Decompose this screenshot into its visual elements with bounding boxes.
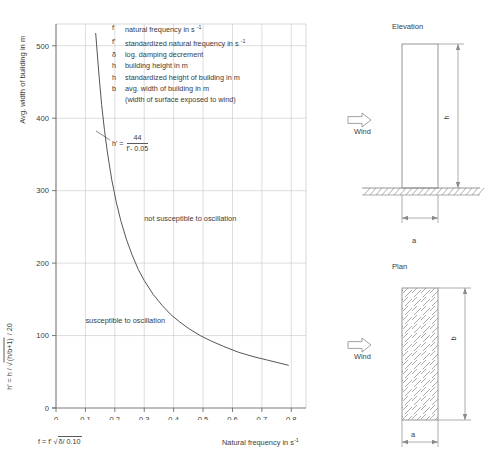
equation-leader-line bbox=[96, 131, 110, 140]
y-tick-label: 400 bbox=[36, 114, 49, 123]
symbol-legend: fnatural frequency in s -1f'standardized… bbox=[112, 22, 245, 105]
ground-hatch-line bbox=[460, 188, 466, 195]
ground-hatch-line bbox=[412, 188, 418, 195]
elevation-building-outline bbox=[402, 44, 438, 188]
ground-hatch-line bbox=[382, 188, 388, 195]
legend-symbol: h bbox=[112, 60, 125, 71]
legend-item: bavg. width of building in m bbox=[112, 83, 245, 94]
region-label-not-susceptible: not susceptible to oscillation bbox=[144, 214, 236, 223]
x-tick-label: 0.8 bbox=[286, 415, 297, 420]
legend-item: δlog. damping decrement bbox=[112, 49, 245, 60]
ground-hatch-line bbox=[388, 188, 394, 195]
equation-numerator: 44 bbox=[127, 133, 149, 144]
dimension-arrow-up-icon bbox=[463, 288, 467, 294]
legend-description: building height in m bbox=[125, 60, 188, 71]
legend-symbol: h bbox=[112, 72, 125, 83]
ground-hatch-line bbox=[472, 188, 478, 195]
legend-item: fnatural frequency in s -1 bbox=[112, 22, 245, 36]
ground-hatch-line bbox=[442, 188, 448, 195]
y-tick-label: 500 bbox=[36, 42, 49, 51]
ground-hatch-line bbox=[406, 188, 412, 195]
ground-hatch-line bbox=[436, 188, 442, 195]
y-formula-radicand: (h/b+1) bbox=[4, 337, 14, 362]
ground-hatch-line bbox=[466, 188, 472, 195]
dimension-arrow-down-icon bbox=[463, 414, 467, 420]
y-formula-prefix: h' = h / bbox=[5, 366, 14, 390]
ground-hatch-line bbox=[454, 188, 460, 195]
x-formula-radicand: δ/ 0.10 bbox=[58, 436, 82, 446]
sqrt-icon: √ bbox=[5, 362, 14, 366]
legend-symbol: f bbox=[112, 22, 125, 36]
ground-hatch-line bbox=[364, 188, 370, 195]
y-axis-title: Avg. width of building in m bbox=[19, 15, 27, 145]
wind-arrow-icon bbox=[348, 338, 371, 352]
ground-hatch-line bbox=[370, 188, 376, 195]
x-tick-label: 0.1 bbox=[80, 415, 91, 420]
ground-hatch-line bbox=[394, 188, 400, 195]
x-tick-label: 0.4 bbox=[168, 415, 179, 420]
equation-lhs: h' = bbox=[112, 139, 127, 148]
legend-item: f'standardized natural frequency in s -1 bbox=[112, 36, 245, 50]
legend-description: natural frequency in s -1 bbox=[125, 22, 202, 36]
y-formula-suffix: / 20 bbox=[5, 323, 14, 337]
legend-symbol: δ bbox=[112, 49, 125, 60]
wind-arrow-icon bbox=[348, 113, 371, 127]
legend-description: log. damping decrement bbox=[125, 49, 203, 60]
x-tick-label: 0.3 bbox=[139, 415, 150, 420]
legend-description: standardized natural frequency in s -1 bbox=[125, 36, 245, 50]
x-tick-label: 0.7 bbox=[257, 415, 268, 420]
ground-hatch-line bbox=[418, 188, 424, 195]
dimension-arrow-right-icon bbox=[432, 216, 438, 220]
building-diagrams bbox=[340, 0, 489, 469]
y-tick-label: 100 bbox=[36, 331, 49, 340]
dimension-arrow-up-icon bbox=[456, 44, 460, 50]
x-axis-formula: f = f' √δ/ 0.10 bbox=[38, 437, 82, 446]
equation-denominator: f'- 0.05 bbox=[127, 144, 149, 154]
legend-symbol: b bbox=[112, 83, 125, 94]
legend-symbol bbox=[112, 94, 125, 105]
plan-building-outline bbox=[402, 288, 438, 420]
legend-description: standardized height of building in m bbox=[125, 72, 240, 83]
ground-hatch-line bbox=[400, 188, 406, 195]
x-formula-prefix: f = f' bbox=[38, 437, 54, 446]
x-axis-title: Natural frequency in s-1 bbox=[222, 437, 299, 447]
y-tick-label: 200 bbox=[36, 259, 49, 268]
y-axis-formula: h' = h / √(h/b+1) / 20 bbox=[5, 314, 14, 400]
legend-exponent: -1 bbox=[197, 24, 202, 30]
legend-description: avg. width of building in m bbox=[125, 83, 209, 94]
curve-equation-callout: h' = 44 f'- 0.05 bbox=[112, 133, 148, 153]
x-axis-title-exponent: -1 bbox=[294, 437, 299, 443]
x-axis-title-text: Natural frequency in s bbox=[222, 438, 294, 447]
legend-item: (width of surface exposed to wind) bbox=[112, 94, 245, 105]
ground-hatch-line bbox=[448, 188, 454, 195]
ground-hatch-line bbox=[376, 188, 382, 195]
legend-item: hstandardized height of building in m bbox=[112, 72, 245, 83]
x-tick-label: 0 bbox=[54, 415, 58, 420]
legend-symbol: f' bbox=[112, 36, 125, 50]
sqrt-icon-x: √ bbox=[54, 437, 58, 446]
legend-exponent: -1 bbox=[241, 38, 246, 44]
x-tick-label: 0.2 bbox=[110, 415, 121, 420]
dimension-arrow-down-icon bbox=[456, 182, 460, 188]
region-label-susceptible: susceptible to oscillation bbox=[85, 316, 165, 325]
y-tick-label: 300 bbox=[36, 186, 49, 195]
x-tick-label: 0.6 bbox=[227, 415, 238, 420]
ground-hatch-line bbox=[478, 188, 484, 195]
x-tick-label: 0.5 bbox=[198, 415, 209, 420]
legend-item: hbuilding height in m bbox=[112, 60, 245, 71]
dimension-arrow-left-icon bbox=[402, 440, 408, 444]
dimension-arrow-right-icon bbox=[432, 440, 438, 444]
ground-hatch-line bbox=[424, 188, 430, 195]
dimension-arrow-left-icon bbox=[402, 216, 408, 220]
ground-hatch-line bbox=[430, 188, 436, 195]
legend-description: (width of surface exposed to wind) bbox=[125, 94, 236, 105]
y-tick-label: 0 bbox=[45, 404, 49, 413]
